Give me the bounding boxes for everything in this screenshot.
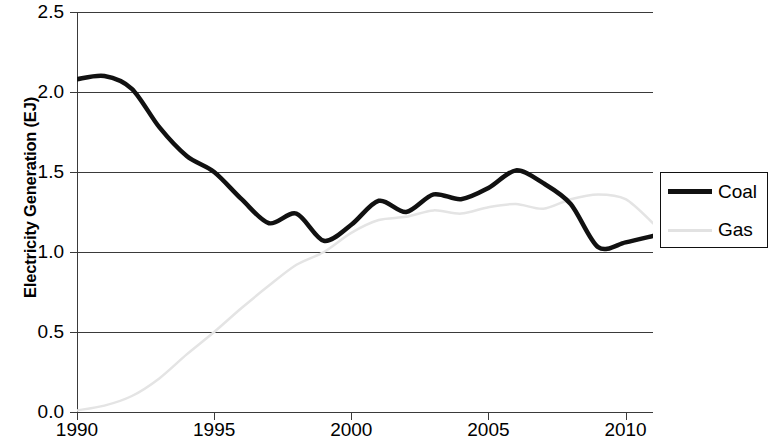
chart-legend: Coal Gas: [660, 172, 768, 248]
x-tick-label: 1995: [174, 419, 254, 440]
series-layer: [77, 12, 653, 412]
y-tick-label: 0.5: [4, 322, 64, 341]
chart-figure: Electricity Generation (EJ) 0.00.51.01.5…: [0, 0, 770, 443]
y-tick-label: 2.0: [4, 82, 64, 101]
x-tick-label: 2005: [448, 419, 528, 440]
y-tick-label: 1.0: [4, 242, 64, 261]
x-tick-label: 2010: [586, 419, 666, 440]
legend-label-gas: Gas: [718, 219, 753, 240]
x-tick-label: 2000: [311, 419, 391, 440]
x-tick-label: 1990: [37, 419, 117, 440]
legend-label-coal: Coal: [718, 181, 757, 202]
legend-entry-coal: Coal: [661, 173, 769, 211]
y-tick-label: 1.5: [4, 162, 64, 181]
legend-entry-gas: Gas: [661, 211, 769, 249]
coal-line-swatch: [668, 189, 712, 194]
coal-line: [77, 76, 653, 249]
gas-line-swatch: [668, 229, 712, 232]
y-tick-label: 2.5: [4, 2, 64, 21]
gridline: [77, 412, 653, 413]
gas-line: [77, 194, 653, 410]
